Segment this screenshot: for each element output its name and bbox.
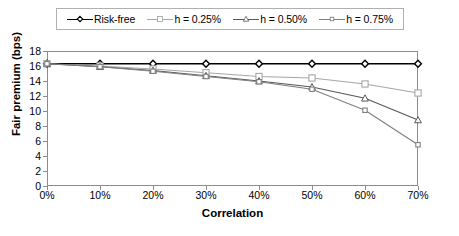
y-tick-label: 14 bbox=[29, 76, 41, 87]
data-point-marker bbox=[204, 74, 208, 78]
legend-label: h = 0.25% bbox=[174, 14, 221, 25]
chart-legend: Risk-free h = 0.25% h = 0.50% h = 0.75% bbox=[56, 8, 404, 30]
x-tick-mark bbox=[418, 186, 419, 190]
data-point-marker bbox=[363, 108, 367, 112]
x-tick-label: 20% bbox=[142, 190, 163, 201]
y-tick-mark bbox=[43, 96, 47, 97]
x-tick-mark bbox=[365, 186, 366, 190]
legend-marker-glyph bbox=[242, 15, 250, 23]
y-tick-mark bbox=[43, 141, 47, 142]
chart-container: Risk-free h = 0.25% h = 0.50% h = 0.75% … bbox=[0, 0, 459, 236]
legend-marker-glyph bbox=[156, 15, 164, 23]
legend-item-h-050[interactable]: h = 0.50% bbox=[233, 13, 307, 25]
data-point-marker bbox=[415, 117, 422, 123]
y-tick-label: 18 bbox=[29, 46, 41, 57]
x-tick-label: 30% bbox=[195, 190, 216, 201]
y-tick-mark bbox=[43, 171, 47, 172]
y-tick-mark bbox=[43, 111, 47, 112]
data-point-marker bbox=[256, 60, 263, 67]
x-tick-mark bbox=[153, 186, 154, 190]
data-point-marker bbox=[257, 80, 261, 84]
data-point-marker bbox=[362, 81, 368, 87]
x-axis-title: Correlation bbox=[47, 207, 418, 219]
x-axis-ticks: 0%10%20%30%40%50%60%70% bbox=[47, 190, 418, 204]
legend-label: Risk-free bbox=[94, 14, 135, 25]
data-point-marker bbox=[151, 69, 155, 73]
legend-marker-small-square-icon bbox=[319, 13, 345, 25]
series-2 bbox=[44, 60, 422, 122]
series-canvas bbox=[47, 51, 418, 186]
x-tick-label: 60% bbox=[354, 190, 375, 201]
y-tick-mark bbox=[43, 126, 47, 127]
x-tick-label: 10% bbox=[89, 190, 110, 201]
y-tick-label: 12 bbox=[29, 91, 41, 102]
y-tick-label: 8 bbox=[35, 121, 41, 132]
y-tick-label: 4 bbox=[35, 151, 41, 162]
y-tick-label: 2 bbox=[35, 166, 41, 177]
data-point-marker bbox=[203, 60, 210, 67]
legend-label: h = 0.75% bbox=[346, 14, 393, 25]
series-line bbox=[47, 64, 418, 145]
x-tick-mark bbox=[47, 186, 48, 190]
data-point-marker bbox=[310, 87, 314, 91]
x-tick-label: 40% bbox=[248, 190, 269, 201]
legend-marker-diamond-icon bbox=[67, 13, 93, 25]
x-tick-mark bbox=[206, 186, 207, 190]
y-tick-mark bbox=[43, 51, 47, 52]
legend-item-risk-free[interactable]: Risk-free bbox=[67, 13, 135, 25]
data-point-marker bbox=[98, 65, 102, 69]
legend-marker-square-icon bbox=[147, 13, 173, 25]
data-point-marker bbox=[415, 90, 421, 96]
data-point-marker bbox=[362, 60, 369, 67]
legend-item-h-075[interactable]: h = 0.75% bbox=[319, 13, 393, 25]
x-tick-mark bbox=[259, 186, 260, 190]
y-tick-label: 16 bbox=[29, 61, 41, 72]
legend-label: h = 0.50% bbox=[260, 14, 307, 25]
y-axis-title: Fair premium (bps) bbox=[10, 24, 22, 144]
legend-marker-glyph bbox=[76, 15, 84, 23]
y-tick-mark bbox=[43, 156, 47, 157]
x-tick-label: 70% bbox=[407, 190, 428, 201]
x-tick-label: 0% bbox=[39, 190, 54, 201]
y-tick-label: 10 bbox=[29, 106, 41, 117]
y-tick-label: 6 bbox=[35, 136, 41, 147]
legend-marker-glyph bbox=[328, 15, 336, 23]
data-point-marker bbox=[309, 60, 316, 67]
legend-marker-triangle-icon bbox=[233, 13, 259, 25]
x-tick-label: 50% bbox=[301, 190, 322, 201]
data-point-marker bbox=[415, 60, 422, 67]
y-tick-mark bbox=[43, 81, 47, 82]
data-point-marker bbox=[309, 75, 315, 81]
legend-item-h-025[interactable]: h = 0.25% bbox=[147, 13, 221, 25]
x-tick-mark bbox=[100, 186, 101, 190]
x-tick-mark bbox=[312, 186, 313, 190]
y-tick-mark bbox=[43, 66, 47, 67]
data-point-marker bbox=[416, 143, 420, 147]
